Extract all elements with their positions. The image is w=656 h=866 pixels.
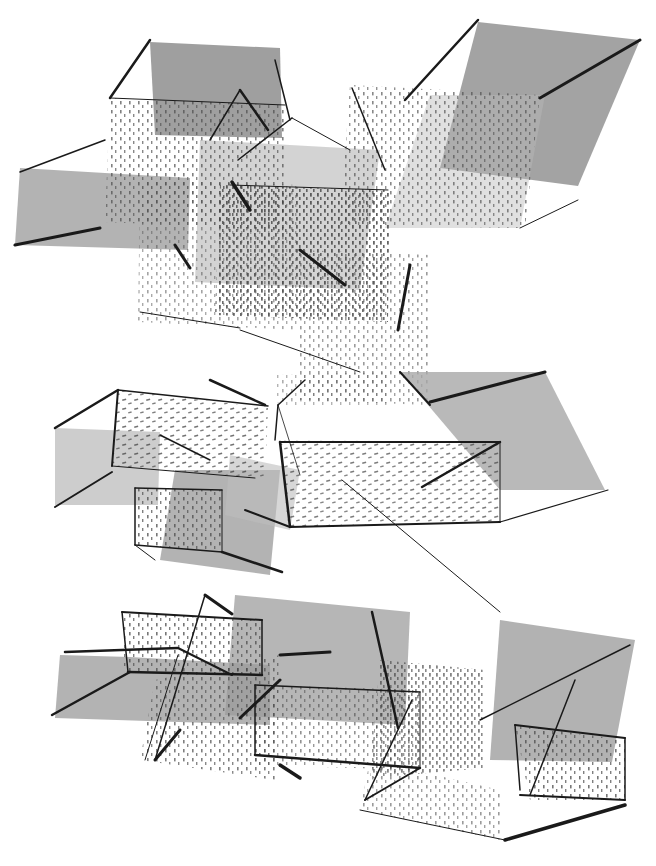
middle-cluster: [55, 372, 608, 612]
top-cluster: [15, 20, 640, 405]
bottom-cluster: [52, 595, 635, 840]
abstract-drawing: [0, 0, 656, 866]
